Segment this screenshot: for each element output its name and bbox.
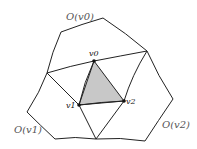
label-v2: v2 [126, 97, 136, 106]
label-v0: v0 [89, 49, 99, 58]
diagram: v0 v1 v2 O(v0) O(v1) O(v2) [0, 0, 197, 149]
label-o-v2: O(v2) [162, 119, 190, 130]
label-v1: v1 [66, 101, 76, 110]
shaded-triangle [79, 61, 124, 105]
label-o-v1: O(v1) [14, 124, 42, 135]
vertex-v0 [92, 59, 96, 63]
vertex-v1 [77, 103, 81, 107]
label-o-v0: O(v0) [66, 11, 94, 22]
